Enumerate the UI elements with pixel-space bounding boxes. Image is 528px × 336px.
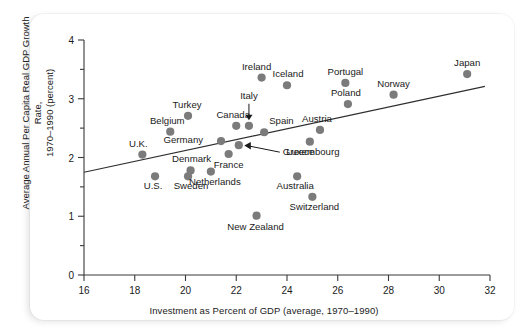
data-point-label: Italy xyxy=(240,90,258,101)
data-point-marker[interactable] xyxy=(138,150,146,158)
y-tick-label: 0 xyxy=(68,270,74,281)
data-point-label: Austria xyxy=(302,113,333,124)
data-point-label: Iceland xyxy=(273,68,304,79)
greece-leader-line xyxy=(250,146,280,152)
data-point-marker[interactable] xyxy=(341,79,349,87)
data-point-label: Germany xyxy=(164,134,204,145)
y-tick-label: 2 xyxy=(68,153,74,164)
x-tick-label: 18 xyxy=(129,285,141,296)
data-point-label: Canada xyxy=(216,109,250,120)
data-point-label: Luxembourg xyxy=(286,146,339,157)
y-tick-label: 1 xyxy=(68,211,74,222)
data-point-marker[interactable] xyxy=(283,81,291,89)
data-points-group: U.K.U.S.TurkeyBelgiumGermanyDenmarkSwede… xyxy=(129,57,480,232)
data-point-label: Ireland xyxy=(242,61,271,72)
trend-line-group xyxy=(84,86,485,172)
y-tick-label: 4 xyxy=(68,35,74,46)
x-tick-label: 22 xyxy=(231,285,243,296)
data-point-marker[interactable] xyxy=(293,172,301,180)
data-point-label: New Zealand xyxy=(227,221,284,232)
data-point-label: Denmark xyxy=(172,153,211,164)
y-tick-label: 3 xyxy=(68,94,74,105)
data-point-marker[interactable] xyxy=(184,112,192,120)
data-point-label: Portugal xyxy=(327,66,363,77)
data-point-label: Spain xyxy=(269,115,294,126)
x-tick-labels: 161820222426283032 xyxy=(78,285,496,296)
data-point-marker[interactable] xyxy=(252,212,260,220)
data-point-label: France xyxy=(214,159,244,170)
x-tick-label: 28 xyxy=(383,285,395,296)
plot-canvas: 161820222426283032 01234 U.K.U.S.TurkeyB… xyxy=(0,0,528,336)
data-point-marker[interactable] xyxy=(245,122,253,130)
data-point-label: Norway xyxy=(377,78,410,89)
data-point-label: Belgium xyxy=(150,115,185,126)
data-point-label: Poland xyxy=(331,87,361,98)
data-point-marker[interactable] xyxy=(260,128,268,136)
data-point-label: Australia xyxy=(276,180,314,191)
data-point-marker[interactable] xyxy=(258,74,266,82)
data-point-marker[interactable] xyxy=(344,100,352,108)
greece-arrow-icon xyxy=(244,142,251,150)
data-point-marker[interactable] xyxy=(389,91,397,99)
data-point-marker[interactable] xyxy=(225,150,233,158)
y-tick-labels: 01234 xyxy=(68,35,74,281)
data-point-marker[interactable] xyxy=(235,141,243,149)
x-tick-label: 16 xyxy=(78,285,90,296)
data-point-label: U.S. xyxy=(144,180,163,191)
trend-line xyxy=(84,86,485,172)
data-point-marker[interactable] xyxy=(306,138,314,146)
data-point-label: Japan xyxy=(454,57,480,68)
scatter-plot-figure: Average Annual Per Capita Real GDP Growt… xyxy=(0,0,528,336)
data-point-marker[interactable] xyxy=(151,172,159,180)
x-tick-label: 20 xyxy=(180,285,192,296)
data-point-label: Switzerland xyxy=(290,201,340,212)
data-point-marker[interactable] xyxy=(217,137,225,145)
data-point-marker[interactable] xyxy=(308,193,316,201)
data-point-marker[interactable] xyxy=(316,126,324,134)
data-point-label: Turkey xyxy=(173,99,202,110)
data-point-label: U.K. xyxy=(129,138,148,149)
x-tick-label: 32 xyxy=(484,285,496,296)
x-tick-label: 24 xyxy=(281,285,293,296)
data-point-marker[interactable] xyxy=(463,70,471,78)
data-point-label: Netherlands xyxy=(189,176,241,187)
data-point-marker[interactable] xyxy=(232,122,240,130)
x-tick-label: 30 xyxy=(434,285,446,296)
x-tick-label: 26 xyxy=(332,285,344,296)
